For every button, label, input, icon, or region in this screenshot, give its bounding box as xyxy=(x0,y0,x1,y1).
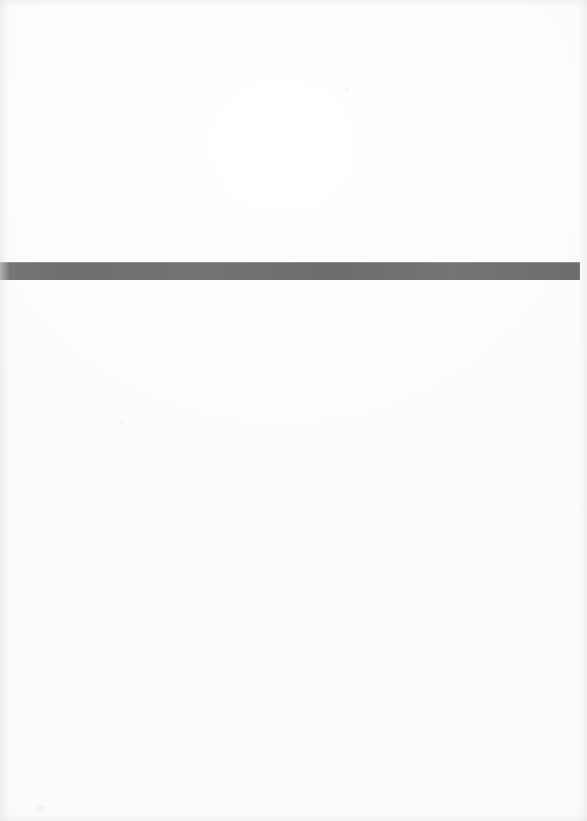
page-background-tone xyxy=(0,0,587,821)
page-edge-vignette xyxy=(0,0,587,821)
scan-speck xyxy=(345,88,349,91)
scan-speck xyxy=(120,422,123,425)
scanned-page xyxy=(0,0,587,821)
horizontal-divider-band xyxy=(0,262,580,280)
scan-speck xyxy=(332,436,335,438)
scan-speck xyxy=(36,806,45,812)
